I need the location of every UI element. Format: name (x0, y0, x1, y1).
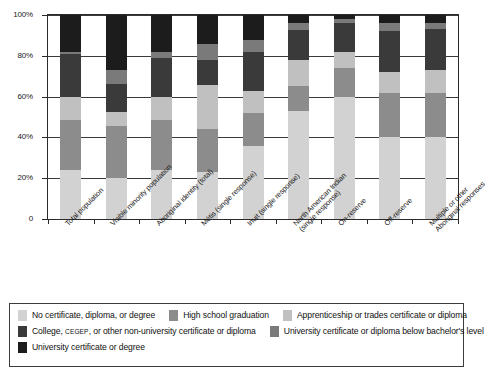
legend-row: No certificate, diploma, or degreeHigh s… (18, 310, 455, 321)
legend-swatch (169, 310, 178, 321)
bar-stack[interactable] (425, 15, 446, 219)
y-axis-tick-label: 0 (29, 215, 33, 223)
legend-label: College, CEGEP, or other non-university … (32, 326, 256, 337)
legend-item[interactable]: University certificate or diploma below … (270, 326, 484, 337)
bar-segment[interactable] (197, 44, 218, 60)
bar-stack[interactable] (106, 15, 127, 219)
bar-segment[interactable] (379, 23, 400, 31)
bar-segment[interactable] (288, 60, 309, 87)
legend-label: Apprenticeship or trades certificate or … (297, 310, 467, 321)
bar-segment[interactable] (288, 30, 309, 60)
legend-swatch (270, 326, 279, 337)
legend-swatch (18, 326, 27, 337)
bar-segment[interactable] (60, 120, 81, 170)
legend-label: University certificate or diploma below … (284, 326, 484, 337)
bar-segment[interactable] (106, 70, 127, 84)
bar-segment[interactable] (334, 97, 355, 219)
legend-row: College, CEGEP, or other non-university … (18, 326, 455, 337)
bar-stack[interactable] (151, 15, 172, 219)
plot-area: 100%80%60%40%20%0 (47, 14, 459, 220)
legend-swatch (18, 342, 27, 353)
legend-item[interactable]: Apprenticeship or trades certificate or … (283, 310, 467, 321)
bar-segment[interactable] (151, 97, 172, 120)
y-axis (47, 14, 48, 220)
x-axis-labels: Total populationVisible minority populat… (47, 222, 459, 300)
bar-segment[interactable] (379, 15, 400, 23)
legend-item[interactable]: High school graduation (169, 310, 269, 321)
bar-segment[interactable] (243, 91, 264, 113)
bar-segment[interactable] (60, 97, 81, 120)
legend-swatch (283, 310, 292, 321)
bar-segment[interactable] (334, 68, 355, 97)
legend-label: University certificate or degree (32, 342, 145, 353)
bar-segment[interactable] (60, 15, 81, 52)
bar-segment[interactable] (379, 93, 400, 138)
legend-item[interactable]: College, CEGEP, or other non-university … (18, 326, 256, 337)
bar-segment[interactable] (106, 112, 127, 126)
bar-segment[interactable] (106, 15, 127, 70)
y-axis-tick-label: 80% (18, 52, 33, 60)
bar-segment[interactable] (334, 23, 355, 52)
bar-segment[interactable] (425, 70, 446, 92)
chart-container: 100%80%60%40%20%0 Total populationVisibl… (0, 0, 474, 300)
legend-item[interactable]: University certificate or degree (18, 342, 145, 353)
bar-segment[interactable] (151, 58, 172, 97)
legend-label: No certificate, diploma, or degree (32, 310, 155, 321)
bar-segment[interactable] (243, 113, 264, 146)
bar-segment[interactable] (288, 23, 309, 30)
bar-segment[interactable] (334, 52, 355, 68)
chart-legend: No certificate, diploma, or degreeHigh s… (9, 303, 464, 367)
legend-label-smallcaps: CEGEP (65, 328, 89, 335)
bar-segment[interactable] (243, 52, 264, 91)
y-axis-tick-label: 60% (18, 93, 33, 101)
bar-segment[interactable] (425, 93, 446, 138)
bar-segment[interactable] (243, 15, 264, 39)
bar-segment[interactable] (151, 120, 172, 170)
bar-stack[interactable] (243, 15, 264, 219)
bar-stack[interactable] (60, 15, 81, 219)
legend-item[interactable]: No certificate, diploma, or degree (18, 310, 155, 321)
bar-segment[interactable] (106, 84, 127, 112)
bar-segment[interactable] (425, 29, 446, 70)
bar-stack[interactable] (379, 15, 400, 219)
bar-segment[interactable] (151, 15, 172, 52)
bar-segment[interactable] (425, 15, 446, 23)
bar-segment[interactable] (288, 111, 309, 219)
bar-segment[interactable] (60, 54, 81, 97)
bar-segment[interactable] (379, 72, 400, 92)
bar-segment[interactable] (197, 60, 218, 86)
bar-segment[interactable] (197, 129, 218, 172)
bar-segment[interactable] (379, 31, 400, 72)
bar-segment[interactable] (243, 40, 264, 52)
bar-segment[interactable] (106, 126, 127, 178)
bar-segment[interactable] (288, 86, 309, 110)
bar-segment[interactable] (197, 15, 218, 44)
y-axis-tick-label: 40% (18, 133, 33, 141)
legend-label: High school graduation (183, 310, 269, 321)
bar-segment[interactable] (197, 85, 218, 129)
legend-row: University certificate or degree (18, 342, 455, 353)
bar-segment[interactable] (288, 15, 309, 23)
legend-swatch (18, 310, 27, 321)
y-axis-tick-label: 20% (18, 174, 33, 182)
y-axis-tick-label: 100% (13, 11, 33, 19)
